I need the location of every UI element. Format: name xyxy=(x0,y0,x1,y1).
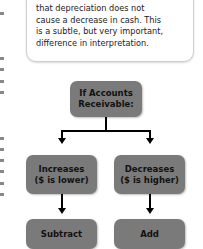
subtract-label: Subtract xyxy=(41,229,82,240)
text-fragment xyxy=(0,148,4,151)
increases-line1: Increases xyxy=(39,164,85,175)
text-fragment xyxy=(0,159,4,162)
increases-node: Increases ($ is lower) xyxy=(26,155,97,194)
arrow-down-icon xyxy=(58,208,66,214)
arrow-down-icon xyxy=(146,138,154,144)
increases-line2: ($ is lower) xyxy=(34,175,88,186)
add-label: Add xyxy=(140,229,159,240)
arrow-down-icon xyxy=(146,208,154,214)
decreases-node: Decreases ($ is higher) xyxy=(114,155,185,194)
text-fragment xyxy=(0,80,4,83)
subtract-node: Subtract xyxy=(26,219,97,249)
text-fragment xyxy=(0,57,4,60)
callout-line: cause a decrease in cash. This xyxy=(36,15,196,27)
callout-text: that depreciation does not cause a decre… xyxy=(36,3,196,49)
callout-line: difference in interpretation. xyxy=(36,38,196,50)
callout-line: is a subtle, but very important, xyxy=(36,26,196,38)
root-node-line1: If Accounts xyxy=(79,88,133,99)
left-column-text-fragments xyxy=(0,0,8,241)
text-fragment xyxy=(0,137,4,140)
text-fragment xyxy=(0,91,4,94)
add-node: Add xyxy=(114,219,185,249)
callout-line: that depreciation does not xyxy=(36,3,196,15)
decreases-line1: Decreases xyxy=(125,164,174,175)
text-fragment xyxy=(0,68,4,71)
root-node-line2: Receivable: xyxy=(78,99,133,110)
root-node: If Accounts Receivable: xyxy=(70,81,142,117)
connector-line xyxy=(105,117,107,130)
text-fragment xyxy=(0,193,4,196)
text-fragment xyxy=(0,182,4,185)
text-fragment xyxy=(0,170,4,173)
arrow-down-icon xyxy=(58,138,66,144)
decreases-line2: ($ is higher) xyxy=(120,175,179,186)
text-fragment xyxy=(0,12,4,15)
connector-line xyxy=(61,130,151,132)
